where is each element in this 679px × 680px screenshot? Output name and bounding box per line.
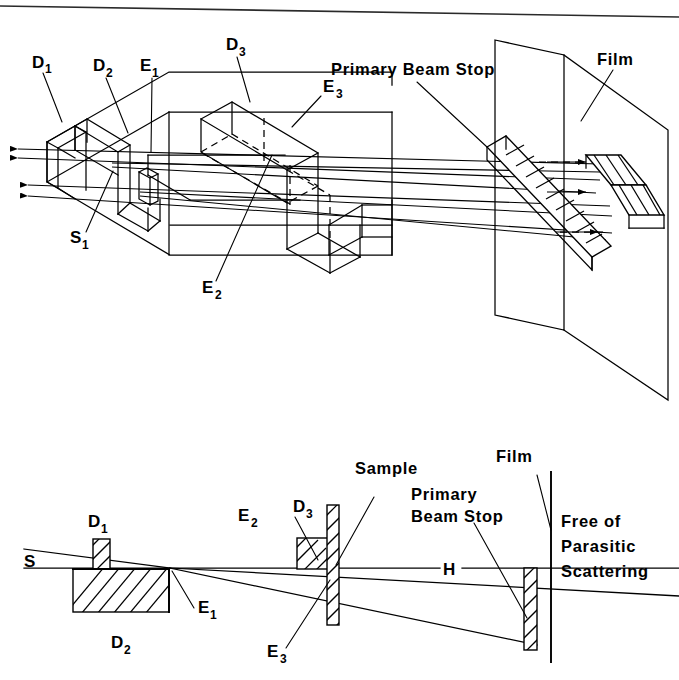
label-film-top: Film xyxy=(597,50,634,68)
label-d2-top: D 2 xyxy=(93,56,113,80)
label-e1-top-main: E xyxy=(140,56,152,75)
label-s1-top-main: S xyxy=(70,228,82,247)
label-d3-top-sub: 3 xyxy=(239,45,246,59)
label-d3-bottom-main: D xyxy=(293,497,306,516)
label-d1-top: D 1 xyxy=(32,53,52,76)
label-primary-beam-stop-top: Primary Beam Stop xyxy=(331,60,495,78)
label-d1-top-sub: 1 xyxy=(45,62,52,76)
label-free-l3: Scattering xyxy=(561,562,649,580)
label-e3-top: E 3 xyxy=(323,77,343,101)
block-d3 xyxy=(201,102,360,273)
label-d3-top-main: D xyxy=(226,35,239,54)
label-e3-bottom: E 3 xyxy=(267,642,287,666)
label-free-l1: Free of xyxy=(561,512,621,530)
label-d1-bottom: D 1 xyxy=(88,512,108,536)
perspective-diagram: D 1 D 2 E 1 D 3 E 3 E 2 xyxy=(18,35,668,400)
label-e2-top-sub: 2 xyxy=(215,288,222,302)
label-e2-top: E 2 xyxy=(202,278,222,302)
label-e2-top-main: E xyxy=(202,278,214,297)
label-film-bottom: Film xyxy=(496,447,533,465)
label-e2-bottom: E 2 xyxy=(238,506,258,530)
label-d1-bottom-sub: 1 xyxy=(101,522,108,536)
label-s-bottom: S xyxy=(24,552,36,571)
label-e1-top: E 1 xyxy=(140,56,159,80)
label-e1-bottom-main: E xyxy=(198,598,210,617)
scattered-beam-section xyxy=(170,568,537,645)
label-e2-bottom-main: E xyxy=(238,506,250,525)
label-d3-bottom-sub: 3 xyxy=(306,507,313,521)
block-d2 xyxy=(75,119,160,231)
label-e3-bottom-sub: 3 xyxy=(280,652,287,666)
label-d1-bottom-main: D xyxy=(88,512,101,531)
label-d3-top: D 3 xyxy=(226,35,246,59)
label-free-l2: Parasitic xyxy=(561,537,636,555)
cross-section-diagram: S H D 1 D 2 D 3 E 1 E 2 E xyxy=(24,447,679,666)
label-d2-bottom: D 2 xyxy=(111,633,131,657)
label-d2-bottom-main: D xyxy=(111,633,124,652)
label-h-bottom: H xyxy=(443,560,456,579)
label-primary-bottom-l1: Primary xyxy=(411,485,477,503)
label-s1-top-sub: 1 xyxy=(82,238,89,252)
label-d2-top-main: D xyxy=(93,56,106,75)
label-e3-bottom-main: E xyxy=(267,642,279,661)
label-e1-top-sub: 1 xyxy=(152,66,159,80)
label-d3-bottom: D 3 xyxy=(293,497,313,521)
figure-canvas: D 1 D 2 E 1 D 3 E 3 E 2 xyxy=(0,0,679,680)
block-d2-section xyxy=(60,560,190,620)
label-d1-top-main: D xyxy=(32,53,45,72)
label-e1-bottom-sub: 1 xyxy=(210,608,217,622)
label-e2-bottom-sub: 2 xyxy=(251,516,258,530)
figure-root: D 1 D 2 E 1 D 3 E 3 E 2 xyxy=(0,0,679,680)
labels-top: D 1 D 2 E 1 D 3 E 3 E 2 xyxy=(32,35,634,302)
label-d2-bottom-sub: 2 xyxy=(124,643,131,657)
leader-lines-bottom xyxy=(172,475,551,648)
top-rule xyxy=(0,6,679,17)
label-sample-bottom: Sample xyxy=(355,459,418,477)
label-d2-top-sub: 2 xyxy=(106,66,113,80)
label-e3-top-sub: 3 xyxy=(336,87,343,101)
label-primary-bottom-l2: Beam Stop xyxy=(411,507,503,525)
label-e3-top-main: E xyxy=(323,77,335,96)
label-e1-bottom: E 1 xyxy=(198,598,217,622)
